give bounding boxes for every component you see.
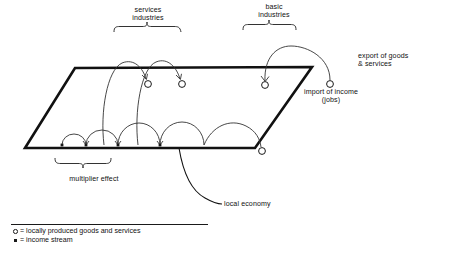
- legend-item-income-label: = income stream: [20, 236, 73, 245]
- brace-multiplier-effect: [55, 158, 111, 168]
- label-services-industries: services industries: [108, 6, 188, 22]
- economic-base-diagram: [0, 0, 450, 253]
- income-stream-marker-1: [61, 144, 64, 147]
- goods-circle-services-1: [145, 81, 152, 88]
- legend: = locally produced goods and services = …: [11, 224, 221, 245]
- label-multiplier-effect: multiplier effect: [52, 175, 136, 183]
- legend-item-income: = income stream: [11, 236, 221, 245]
- income-stream-marker-3: [117, 144, 120, 147]
- goods-circle-services-2: [179, 81, 186, 88]
- goods-circle-basic-inside: [262, 82, 269, 89]
- legend-divider: [11, 224, 208, 225]
- label-export-of-goods-and-services: export of goods & services: [358, 52, 448, 68]
- legend-item-goods-label: = locally produced goods and services: [20, 227, 140, 236]
- brace-basic-industries: [243, 20, 296, 30]
- goods-circle-export-lower: [259, 148, 266, 155]
- square-icon: [11, 236, 20, 245]
- goods-circle-export-outside: [327, 81, 334, 88]
- income-stream-marker-2: [85, 144, 88, 147]
- brace-services-industries: [114, 22, 181, 32]
- label-local-economy: local economy: [224, 200, 304, 208]
- income-stream-marker-4: [159, 144, 162, 147]
- diagram-canvas: services industries basic industries exp…: [0, 0, 450, 253]
- local-economy-leader-line: [179, 148, 222, 204]
- legend-item-goods: = locally produced goods and services: [11, 227, 221, 236]
- label-import-of-income: import of income (jobs): [288, 88, 374, 104]
- circle-icon: [11, 227, 20, 236]
- label-basic-industries: basic industries: [238, 3, 310, 19]
